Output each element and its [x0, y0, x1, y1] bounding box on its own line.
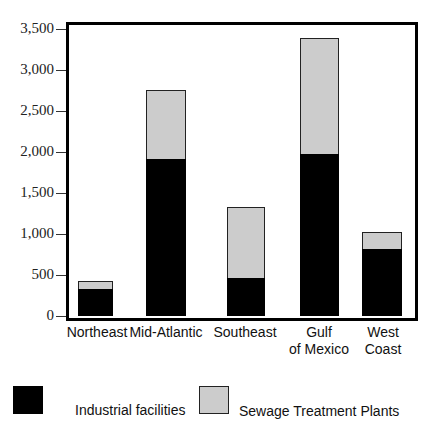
legend-label-sewage: Sewage Treatment Plants	[239, 403, 399, 419]
segment-industrial	[78, 289, 113, 316]
segment-industrial	[227, 278, 265, 316]
bar-gulf-of-mexico	[300, 38, 339, 316]
y-tick-mark	[56, 29, 66, 30]
segment-sewage	[227, 207, 265, 279]
y-tick-label: 3,000	[2, 61, 54, 77]
y-tick-mark	[56, 275, 66, 276]
x-tick-label: West Coast	[338, 324, 428, 358]
y-tick-mark	[56, 193, 66, 194]
segment-sewage	[362, 232, 402, 250]
segment-sewage	[146, 90, 186, 161]
y-tick-mark	[56, 152, 66, 153]
y-tick-label: 3,500	[2, 20, 54, 36]
x-tick-label: Mid-Atlantic	[121, 324, 211, 341]
legend-swatch-sewage	[199, 386, 229, 414]
y-tick-label: 0	[2, 307, 54, 323]
stacked-bar-chart: 05001,0001,5002,0002,5003,0003,500 North…	[0, 0, 436, 441]
bar-mid-atlantic	[146, 90, 186, 316]
bar-west-coast	[362, 232, 402, 316]
y-tick-label: 2,500	[2, 102, 54, 118]
legend-swatch-industrial	[13, 386, 43, 414]
y-tick-mark	[56, 70, 66, 71]
y-tick-mark	[56, 234, 66, 235]
segment-industrial	[300, 154, 339, 316]
segment-industrial	[362, 249, 402, 316]
segment-sewage	[300, 38, 339, 155]
y-tick-label: 500	[2, 266, 54, 282]
bar-southeast	[227, 207, 265, 316]
y-tick-mark	[56, 316, 66, 317]
y-tick-label: 1,500	[2, 184, 54, 200]
legend-label-industrial: Industrial facilities	[75, 402, 186, 418]
segment-industrial	[146, 159, 186, 316]
y-tick-label: 1,000	[2, 225, 54, 241]
bar-northeast	[78, 281, 113, 316]
y-tick-mark	[56, 111, 66, 112]
y-tick-label: 2,000	[2, 143, 54, 159]
